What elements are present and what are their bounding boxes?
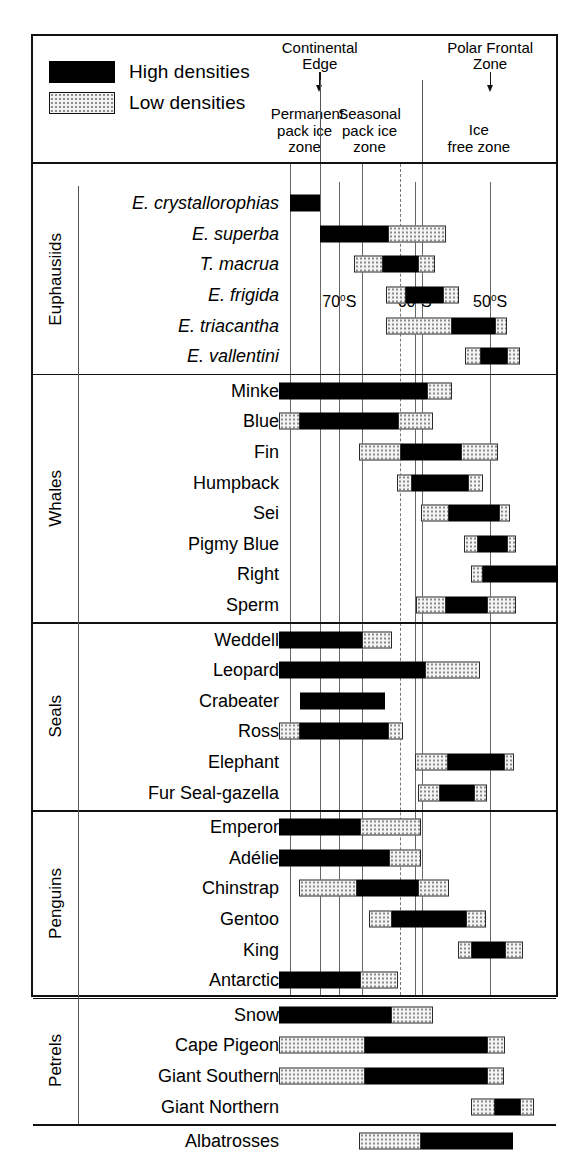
species-row[interactable]: Crabeater — [33, 686, 556, 717]
species-label: Pigmy Blue — [188, 533, 279, 554]
species-row[interactable]: Chinstrap — [33, 873, 556, 904]
species-label: Leopard — [213, 660, 279, 681]
range-bar-low-density — [458, 941, 472, 958]
species-label: T. macrua — [200, 254, 279, 275]
species-label: Gentoo — [220, 909, 279, 930]
range-bar-low-density — [461, 444, 497, 461]
range-bar-high-density — [440, 784, 473, 801]
species-row[interactable]: Elephant — [33, 747, 556, 778]
species-row[interactable]: Ross — [33, 716, 556, 747]
species-label: Albatrosses — [185, 1131, 279, 1152]
species-row[interactable]: Giant Northern — [33, 1091, 556, 1122]
species-row[interactable]: Pigmy Blue — [33, 529, 556, 560]
legend-swatch-low-density — [49, 92, 115, 114]
range-bar-low-density — [362, 631, 392, 648]
legend-swatch-high-density — [49, 61, 115, 83]
species-label: Giant Southern — [158, 1066, 279, 1087]
header-zone-divider — [320, 80, 321, 162]
species-label: Minke — [231, 380, 279, 401]
range-bar-low-density — [360, 972, 398, 989]
species-row[interactable]: Antarctic — [33, 965, 556, 996]
species-row[interactable]: Cape Pigeon — [33, 1030, 556, 1061]
range-bar-high-density — [365, 1068, 487, 1085]
species-row[interactable]: Sei — [33, 498, 556, 529]
species-row[interactable]: Blue — [33, 406, 556, 437]
range-bar-low-density — [360, 819, 420, 836]
species-row[interactable]: Minke — [33, 376, 556, 407]
species-label: Cape Pigeon — [175, 1035, 279, 1056]
range-bar-high-density — [495, 1098, 521, 1115]
species-row[interactable]: Gentoo — [33, 904, 556, 935]
species-row[interactable]: Humpback — [33, 467, 556, 498]
range-bar-low-density — [466, 911, 486, 928]
range-bar-low-density — [464, 535, 478, 552]
species-label: Humpback — [193, 472, 279, 493]
species-row[interactable]: T. macrua — [33, 249, 556, 280]
species-row[interactable]: Right — [33, 559, 556, 590]
species-row[interactable]: Emperor — [33, 812, 556, 843]
species-label: E. triacantha — [178, 315, 279, 336]
range-bar-low-density — [369, 911, 392, 928]
range-bar-low-density — [418, 256, 435, 273]
species-row[interactable]: Adélie — [33, 843, 556, 874]
species-row[interactable]: King — [33, 934, 556, 965]
range-bar-high-density — [279, 631, 362, 648]
marker-polar-frontal-zone-line2: Zone — [425, 56, 555, 72]
species-row[interactable]: Fur Seal-gazella — [33, 777, 556, 808]
range-bar-high-density — [446, 597, 487, 614]
species-row[interactable]: E. crystallorophias — [33, 188, 556, 219]
species-label: Right — [237, 564, 279, 585]
range-bar-low-density — [487, 1068, 504, 1085]
species-label: Fur Seal-gazella — [148, 782, 279, 803]
species-label: Sperm — [226, 595, 279, 616]
species-label: E. superba — [192, 223, 279, 244]
range-bar-low-density — [499, 505, 510, 522]
range-bar-low-density — [474, 784, 488, 801]
zone-caption-ice-free: Ice free zone — [434, 122, 524, 155]
range-bar-high-density — [365, 1037, 487, 1054]
species-row[interactable]: Leopard — [33, 655, 556, 686]
group-petrels: PetrelsSnowCape PigeonGiant SouthernGian… — [33, 998, 556, 1124]
species-row[interactable]: Fin — [33, 437, 556, 468]
range-bar-low-density — [487, 597, 516, 614]
species-row[interactable]: E. frigida — [33, 280, 556, 311]
species-label: E. frigida — [208, 285, 279, 306]
range-bar-low-density — [507, 535, 516, 552]
species-row[interactable]: E. superba — [33, 219, 556, 250]
range-bar-low-density — [416, 597, 446, 614]
species-label: Sei — [253, 503, 279, 524]
range-bar-high-density — [290, 195, 319, 212]
species-row[interactable]: Giant Southern — [33, 1061, 556, 1092]
species-row[interactable]: Sperm — [33, 590, 556, 621]
species-row[interactable]: Snow — [33, 1000, 556, 1031]
range-bar-high-density — [478, 535, 507, 552]
zone-caption-permanent-pack-ice: Permanent pack ice zone — [271, 106, 339, 156]
range-bar-high-density — [412, 474, 468, 491]
range-bar-low-density — [389, 849, 421, 866]
range-bar-high-density — [279, 849, 389, 866]
group-penguins: PenguinsEmperorAdélieChinstrapGentooKing… — [33, 810, 556, 998]
range-bar-low-density — [418, 880, 450, 897]
species-label: Ross — [238, 721, 279, 742]
range-bar-high-density — [279, 662, 425, 679]
marker-polar-frontal-zone: Polar Frontal Zone — [425, 40, 555, 94]
species-label: Fin — [254, 442, 279, 463]
species-label: Weddell — [214, 629, 279, 650]
range-bar-high-density — [279, 819, 360, 836]
species-row[interactable]: Albatrosses — [33, 1126, 556, 1154]
species-row[interactable]: E. triacantha — [33, 310, 556, 341]
range-bar-low-density — [354, 256, 383, 273]
range-bar-low-density — [397, 474, 412, 491]
species-label: Adélie — [229, 847, 279, 868]
chart-body: 70oS60oS50oS EuphausiidsE. crystalloroph… — [33, 164, 556, 995]
species-label: Crabeater — [199, 690, 279, 711]
range-bar-low-density — [386, 317, 452, 334]
species-label: Emperor — [210, 817, 279, 838]
species-row[interactable]: E. vallentini — [33, 341, 556, 372]
range-bar-high-density — [279, 1006, 391, 1023]
range-bar-low-density — [471, 566, 483, 583]
range-bar-low-density — [421, 505, 450, 522]
range-bar-high-density — [383, 256, 418, 273]
species-row[interactable]: Weddell — [33, 624, 556, 655]
range-bar-low-density — [359, 1133, 421, 1150]
